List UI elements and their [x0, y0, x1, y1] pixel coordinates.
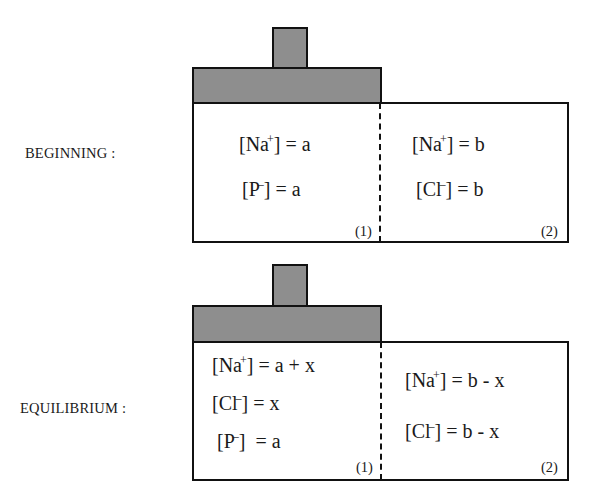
concentration-cl-comp2: [Cl–] = b - x	[405, 421, 499, 441]
piston-rod	[272, 27, 308, 69]
compartment-label-2: (2)	[541, 460, 558, 475]
piston	[192, 67, 382, 104]
compartment-label-2: (2)	[541, 224, 558, 239]
stage-label-beginning: BEGINNING :	[25, 145, 115, 162]
compartment-label-1: (1)	[355, 224, 372, 239]
concentration-na-comp2: [Na+] = b - x	[405, 370, 504, 390]
concentration-na-comp1: [Na+] = a	[239, 134, 311, 154]
concentration-cl-comp2: [Cl–] = b	[416, 179, 484, 199]
piston-rod	[272, 264, 308, 307]
piston	[192, 305, 382, 343]
concentration-cl-comp1: [Cl–] = x	[212, 393, 280, 413]
stage-label-equilibrium: EQUILIBRIUM :	[20, 400, 126, 417]
concentration-na-comp1: [Na+] = a + x	[212, 355, 315, 375]
semipermeable-membrane	[380, 342, 382, 480]
compartment-label-1: (1)	[356, 460, 373, 475]
concentration-p-comp1: [P–] = a	[242, 179, 301, 199]
concentration-p-comp1: [P–] = a	[217, 431, 281, 451]
concentration-na-comp2: [Na+] = b	[412, 134, 485, 154]
semipermeable-membrane	[379, 103, 381, 242]
